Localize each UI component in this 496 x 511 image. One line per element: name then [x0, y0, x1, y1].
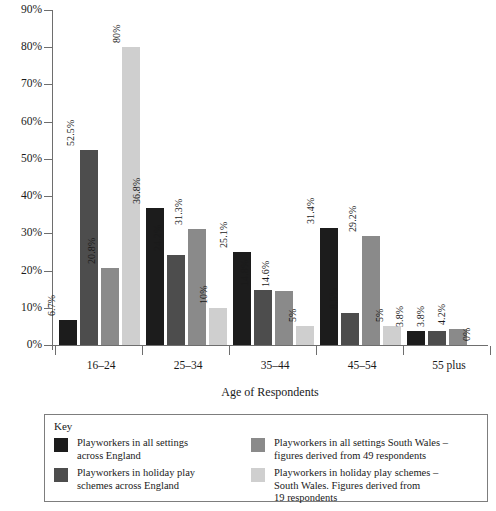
- y-axis-tick-mark: [44, 10, 53, 11]
- bar-value-label: 25.1%: [219, 221, 229, 247]
- y-axis-tick-label: 10%: [21, 302, 42, 314]
- bar-value-label: 20.8%: [87, 237, 97, 263]
- y-axis-tick-label: 30%: [21, 228, 42, 240]
- y-axis-tick-mark: [44, 84, 53, 85]
- y-axis-tick-mark: [44, 345, 53, 346]
- bar[interactable]: [296, 326, 314, 345]
- legend-swatch-icon: [251, 468, 265, 482]
- legend-title: Key: [54, 420, 72, 432]
- y-axis-tick-mark: [44, 233, 53, 234]
- bar-chart: 0%10%20%30%40%50%60%70%80%90% 6.7%52.5%2…: [0, 0, 496, 405]
- legend-item-label: Playworkers in all settings across Engla…: [77, 437, 188, 462]
- bar[interactable]: [407, 331, 425, 345]
- x-axis-tick-mark: [55, 346, 56, 355]
- y-axis-tick-mark: [44, 159, 53, 160]
- y-axis-tick-label: 20%: [21, 265, 42, 277]
- bar[interactable]: [167, 255, 185, 345]
- bar-value-label: 5%: [288, 309, 298, 323]
- x-axis-tick-mark: [142, 346, 143, 355]
- x-axis-category-label: 25–34: [146, 360, 230, 372]
- y-axis-tick-label: 40%: [21, 190, 42, 202]
- bar-value-label: 4.2%: [437, 304, 447, 325]
- legend-item-label: Playworkers in holiday play schemes acro…: [77, 467, 195, 492]
- y-axis-tick-mark: [44, 122, 53, 123]
- x-axis-category-label: 45–54: [320, 360, 404, 372]
- bar-value-label: 10%: [199, 285, 209, 304]
- legend-item-label: Playworkers in holiday play schemes – So…: [274, 467, 438, 505]
- y-axis-tick-mark: [44, 196, 53, 197]
- bar-value-label: 8.5%: [329, 288, 339, 309]
- bar[interactable]: [362, 236, 380, 345]
- bar-value-label: 5%: [375, 309, 385, 323]
- bar-slot: 5%: [383, 10, 401, 345]
- y-axis-labels: 0%10%20%30%40%50%60%70%80%90%: [0, 0, 42, 345]
- plot-area: 6.7%52.5%20.8%80%36.8%24.2%31.3%10%25.1%…: [53, 10, 488, 345]
- bar-value-label: 3.8%: [395, 306, 405, 327]
- bar-slot: 24.2%: [167, 10, 185, 345]
- bar-value-label: 14.8%: [240, 260, 250, 286]
- y-axis-tick-label: 60%: [21, 116, 42, 128]
- bar[interactable]: [341, 313, 359, 345]
- x-axis-tick-mark: [316, 346, 317, 355]
- legend-item-label: Playworkers in all settings South Wales …: [274, 437, 448, 462]
- bar-slot: 25.1%: [233, 10, 251, 345]
- bar-value-label: 31.4%: [306, 198, 316, 224]
- bar-value-label: 24.2%: [153, 225, 163, 251]
- bar-group: 31.4%8.5%29.2%5%: [320, 10, 404, 345]
- bar-value-label: 6.7%: [47, 295, 57, 316]
- bar-slot: 4.2%: [449, 10, 467, 345]
- x-axis-tick-mark: [403, 346, 404, 355]
- bar-slot: 14.6%: [275, 10, 293, 345]
- y-axis-tick-mark: [44, 47, 53, 48]
- x-axis-title: Age of Respondents: [52, 385, 488, 400]
- bar-slot: 3.8%: [428, 10, 446, 345]
- bar[interactable]: [209, 308, 227, 345]
- bar[interactable]: [320, 228, 338, 345]
- bar-value-label: 14.6%: [261, 260, 271, 286]
- legend-swatch-icon: [251, 438, 265, 452]
- legend-item: Playworkers in all settings across Engla…: [54, 437, 244, 462]
- chart-legend: Key Playworkers in all settings across E…: [44, 414, 488, 502]
- bar-value-label: 0%: [462, 327, 472, 341]
- bar-slot: 36.8%: [146, 10, 164, 345]
- y-axis-tick-mark: [44, 308, 53, 309]
- legend-item: Playworkers in holiday play schemes acro…: [54, 467, 244, 492]
- x-axis-category-label: 55 plus: [407, 360, 491, 372]
- legend-item: Playworkers in holiday play schemes – So…: [251, 467, 483, 505]
- bar-value-label: 29.2%: [348, 206, 358, 232]
- bar-slot: 8.5%: [341, 10, 359, 345]
- y-axis-tick-label: 0%: [27, 339, 42, 351]
- bar[interactable]: [254, 290, 272, 345]
- bar[interactable]: [428, 331, 446, 345]
- bar[interactable]: [59, 320, 77, 345]
- bar-value-label: 80%: [112, 25, 122, 44]
- bar-slot: 0%: [470, 10, 488, 345]
- bar-value-label: 3.8%: [416, 306, 426, 327]
- y-axis-tick-label: 50%: [21, 153, 42, 165]
- bar[interactable]: [101, 268, 119, 345]
- y-axis-tick-label: 70%: [21, 79, 42, 91]
- x-axis-category-label: 16–24: [59, 360, 143, 372]
- bar-value-label: 31.3%: [174, 198, 184, 224]
- y-axis-tick-label: 90%: [21, 4, 42, 16]
- y-axis-tick-label: 80%: [21, 41, 42, 53]
- bar-value-label: 36.8%: [132, 178, 142, 204]
- bar-slot: 10%: [209, 10, 227, 345]
- legend-swatch-icon: [54, 438, 68, 452]
- legend-item: Playworkers in all settings South Wales …: [251, 437, 483, 462]
- x-axis-category-label: 35–44: [233, 360, 317, 372]
- bar-slot: 52.5%: [80, 10, 98, 345]
- bar[interactable]: [383, 326, 401, 345]
- legend-swatch-icon: [54, 468, 68, 482]
- bar-slot: 3.8%: [407, 10, 425, 345]
- bar-slot: 29.2%: [362, 10, 380, 345]
- bar-group: 25.1%14.8%14.6%5%: [233, 10, 317, 345]
- x-axis-tick-mark: [490, 346, 491, 355]
- bar-group: 3.8%3.8%4.2%0%: [407, 10, 491, 345]
- bar-slot: 5%: [296, 10, 314, 345]
- bar-slot: 14.8%: [254, 10, 272, 345]
- bar-value-label: 52.5%: [66, 119, 76, 145]
- x-axis-tick-mark: [229, 346, 230, 355]
- bar-group: 36.8%24.2%31.3%10%: [146, 10, 230, 345]
- bar-slot: 20.8%: [101, 10, 119, 345]
